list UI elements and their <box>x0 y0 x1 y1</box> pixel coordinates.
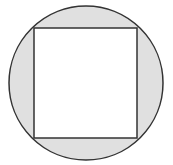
inscribed-square-diagram <box>0 0 173 165</box>
inscribed-square <box>34 28 137 138</box>
